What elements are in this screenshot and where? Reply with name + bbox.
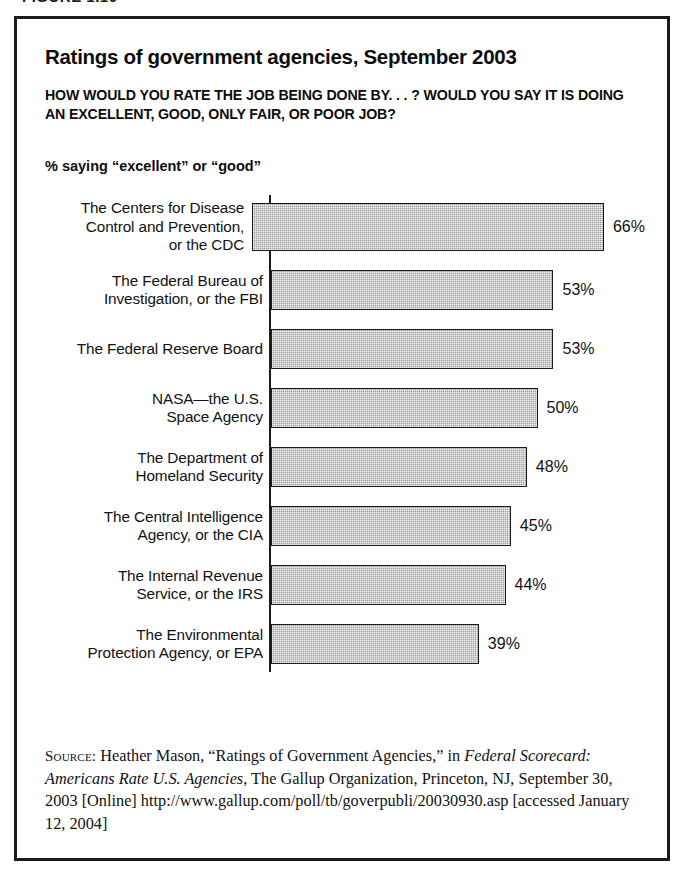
bar-category-label: The Federal Bureau of Investigation, or … xyxy=(45,272,269,309)
bar-track: 53% xyxy=(269,321,645,377)
bar xyxy=(271,329,553,369)
bar-row: The Federal Reserve Board53% xyxy=(45,321,645,377)
bar xyxy=(252,203,604,251)
bar-track: 53% xyxy=(269,262,645,318)
figure-content: Ratings of government agencies, Septembe… xyxy=(45,45,649,675)
bar-row: The Environmental Protection Agency, or … xyxy=(45,616,645,672)
bar-track: 50% xyxy=(269,380,645,436)
bar-row: NASA—the U.S. Space Agency50% xyxy=(45,380,645,436)
chart-question-text: HOW WOULD YOU RATE THE JOB BEING DONE BY… xyxy=(45,86,645,124)
bar-row: The Centers for Disease Control and Prev… xyxy=(45,195,645,259)
bar-category-label: The Environmental Protection Agency, or … xyxy=(45,626,269,663)
bar-track: 39% xyxy=(269,616,645,672)
bar-value-label: 53% xyxy=(562,281,594,299)
bar-value-label: 45% xyxy=(520,517,552,535)
bar-track: 48% xyxy=(269,439,645,495)
figure-number-caption: FIGURE 1.10 xyxy=(22,0,222,2)
bar-category-label: NASA—the U.S. Space Agency xyxy=(45,390,269,427)
bar-row: The Internal Revenue Service, or the IRS… xyxy=(45,557,645,613)
bar-chart-plot: The Centers for Disease Control and Prev… xyxy=(45,195,645,672)
bar-row: The Department of Homeland Security48% xyxy=(45,439,645,495)
bar xyxy=(271,388,538,428)
bar xyxy=(271,506,511,546)
bar xyxy=(271,565,506,605)
bar xyxy=(271,447,527,487)
bar-category-label: The Centers for Disease Control and Prev… xyxy=(45,199,250,255)
bar-value-label: 66% xyxy=(613,218,645,236)
bar-value-label: 39% xyxy=(488,635,520,653)
bar-value-label: 48% xyxy=(536,458,568,476)
bar-value-label: 50% xyxy=(547,399,579,417)
bar-track: 66% xyxy=(250,195,645,259)
source-text-part1: Heather Mason, “Ratings of Government Ag… xyxy=(96,746,464,765)
bar xyxy=(271,624,479,664)
page-title: Ratings of government agencies, Septembe… xyxy=(45,45,649,69)
bar-value-label: 53% xyxy=(562,340,594,358)
bar-category-label: The Internal Revenue Service, or the IRS xyxy=(45,567,269,604)
source-label: Source: xyxy=(45,748,96,764)
bar-value-label: 44% xyxy=(515,576,547,594)
bar-track: 44% xyxy=(269,557,645,613)
bar-track: 45% xyxy=(269,498,645,554)
bar-category-label: The Department of Homeland Security xyxy=(45,449,269,486)
bar-row: The Central Intelligence Agency, or the … xyxy=(45,498,645,554)
source-note: Source: Heather Mason, “Ratings of Gover… xyxy=(45,745,641,835)
chart-axis-note: % saying “excellent” or “good” xyxy=(45,158,649,174)
bar-category-label: The Central Intelligence Agency, or the … xyxy=(45,508,269,545)
figure-box: Ratings of government agencies, Septembe… xyxy=(14,16,670,861)
bar xyxy=(271,270,553,310)
bar-row: The Federal Bureau of Investigation, or … xyxy=(45,262,645,318)
bar-rows-container: The Centers for Disease Control and Prev… xyxy=(45,195,645,672)
bar-category-label: The Federal Reserve Board xyxy=(45,340,269,359)
